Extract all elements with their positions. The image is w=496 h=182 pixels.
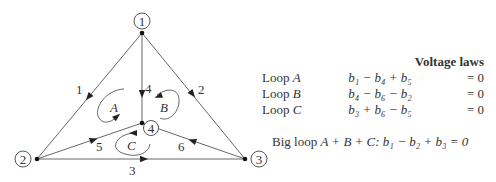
- edge-label-1: 1: [76, 82, 83, 97]
- edge-6-arrow-icon: [187, 136, 197, 145]
- edge-label-2: 2: [198, 82, 205, 97]
- loop-b-equation: Loop B b₄ − b₆ − b₂ = 0: [262, 86, 488, 102]
- voltage-laws-title: Voltage laws: [262, 54, 484, 70]
- node-1-dot: [140, 31, 145, 36]
- loop-c-equation: Loop C b₃ + b₆ − b₅ = 0: [262, 102, 488, 118]
- big-loop-prefix: Big loop: [272, 134, 320, 149]
- loop-a-equation: Loop A b₁ − b₄ + b₅ = 0: [262, 70, 488, 86]
- voltage-laws-panel: Voltage laws Loop A b₁ − b₄ + b₅ = 0 Loo…: [262, 54, 488, 118]
- node-4-dot: [140, 121, 145, 126]
- loop-name: Loop: [262, 86, 293, 101]
- edge-label-4: 4: [145, 81, 152, 96]
- big-loop-expression: : b₁ − b₂ + b₃ = 0: [375, 134, 468, 149]
- loop-letter: C: [293, 102, 302, 117]
- node-label-1: 1: [139, 14, 146, 29]
- loop-name: Loop: [262, 102, 293, 117]
- node-label-3: 3: [256, 152, 263, 167]
- edge-3-arrow-icon: [140, 156, 148, 162]
- loop-rhs: = 0: [455, 86, 484, 102]
- node-3-dot: [243, 157, 248, 162]
- loop-rhs: = 0: [455, 70, 484, 86]
- loop-c-arrow-icon: [129, 130, 137, 136]
- loop-expression: b₄ − b₆ − b₂: [348, 86, 455, 102]
- loop-label-b: B: [160, 100, 168, 115]
- edge-label-6: 6: [178, 139, 185, 154]
- edge-label-5: 5: [96, 139, 103, 154]
- loop-expression: b₃ + b₆ − b₅: [348, 102, 455, 118]
- loop-label-c: C: [127, 138, 136, 153]
- node-2-dot: [35, 157, 40, 162]
- graph-diagram: 1 2 3 4 5 6 A B C 1 2 3 4: [0, 0, 270, 182]
- node-label-2: 2: [20, 152, 27, 167]
- loop-label-a: A: [109, 100, 118, 115]
- loop-expression: b₁ − b₄ + b₅: [348, 70, 455, 86]
- edge-label-3: 3: [129, 163, 136, 178]
- loop-rhs: = 0: [455, 102, 484, 118]
- node-label-4: 4: [148, 121, 155, 136]
- loop-name: Loop: [262, 70, 293, 85]
- loop-letter: B: [293, 86, 301, 101]
- big-loop-loops: A + B + C: [320, 134, 375, 149]
- big-loop-equation: Big loop A + B + C: b₁ − b₂ + b₃ = 0: [272, 134, 468, 150]
- loop-letter: A: [293, 70, 301, 85]
